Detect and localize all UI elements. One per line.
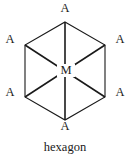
vertex-label-top: A	[58, 2, 72, 15]
vertex-label-lower-left: A	[3, 86, 17, 99]
vertex-label-bottom: A	[58, 120, 72, 133]
center-atom-label: M	[57, 64, 75, 77]
vertex-label-upper-right: A	[113, 33, 127, 46]
vertex-label-upper-left: A	[3, 33, 17, 46]
vertex-label-lower-right: A	[113, 86, 127, 99]
figure-caption: hexagon	[0, 140, 130, 154]
hexagon-figure: A A A A A A M hexagon	[0, 0, 130, 159]
